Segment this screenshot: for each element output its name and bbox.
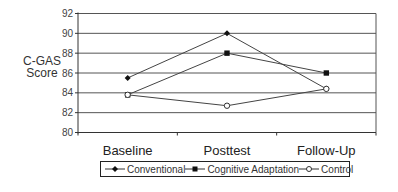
filled-square-marker-icon xyxy=(185,165,205,173)
y-tick-label: 82 xyxy=(62,107,74,118)
data-point-square xyxy=(324,70,329,75)
legend-label: Conventional xyxy=(127,164,185,175)
data-point-circle xyxy=(125,92,130,97)
legend-label: Control xyxy=(321,164,353,175)
legend-item-control: Control xyxy=(299,164,353,175)
y-axis-label: C-GAS Score xyxy=(20,55,64,79)
x-tick-label: Follow-Up xyxy=(297,143,356,158)
open-circle-marker-icon xyxy=(299,165,319,173)
legend-item-cognitive-adaptation: Cognitive Adaptation xyxy=(185,164,299,175)
x-tick-label: Posttest xyxy=(204,143,251,158)
x-tick-label: Baseline xyxy=(103,143,153,158)
y-tick-label: 80 xyxy=(62,127,74,138)
series-line xyxy=(128,33,327,89)
y-tick-label: 90 xyxy=(62,28,74,39)
legend: Conventional Cognitive Adaptation Contro… xyxy=(100,161,350,177)
data-point-diamond xyxy=(224,30,230,36)
series-line xyxy=(128,53,327,95)
y-axis-label-line-2: Score xyxy=(20,67,64,79)
y-tick-label: 92 xyxy=(62,8,74,19)
data-point-diamond xyxy=(125,75,131,81)
filled-diamond-marker-icon xyxy=(105,165,125,173)
data-point-circle xyxy=(224,103,229,108)
legend-item-conventional: Conventional xyxy=(105,164,185,175)
y-tick-label: 84 xyxy=(62,87,74,98)
data-point-square xyxy=(224,50,229,55)
legend-label: Cognitive Adaptation xyxy=(207,164,299,175)
data-point-circle xyxy=(324,86,329,91)
